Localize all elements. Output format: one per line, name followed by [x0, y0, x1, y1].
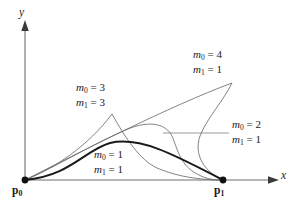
- annotation-m11-line2: m1 = 1: [94, 163, 123, 178]
- curve-m0-2-m1-1: [25, 124, 223, 180]
- annotation-m33-line1: m0 = 3: [76, 81, 105, 96]
- curve-m0-1-m1-1: [25, 142, 223, 180]
- curve-diagram: y x p0 p1 m0 = 4 m1 = 1 m0 = 3 m1 = 3 m0…: [0, 0, 301, 212]
- x-axis: [25, 176, 279, 183]
- annotation-m21-var0: m: [232, 118, 240, 130]
- point-label-p1-sub: 1: [220, 189, 224, 198]
- annotation-m41-eq1: = 1: [205, 63, 222, 75]
- annotation-m41-eq0: = 4: [205, 48, 222, 60]
- annotation-m41-var0: m: [193, 48, 201, 60]
- y-axis-arrowhead: [21, 20, 28, 31]
- annotation-m11-eq0: = 1: [106, 148, 123, 160]
- annotation-m33-var1: m: [76, 96, 84, 108]
- curve-m0-3-m1-3: [25, 114, 223, 180]
- point-label-p1: p1: [214, 184, 224, 198]
- annotation-m41-line2: m1 = 1: [193, 63, 222, 78]
- annotation-m21-eq0: = 2: [244, 118, 261, 130]
- annotation-m11-var1: m: [94, 163, 102, 175]
- annotation-m0-2-m1-1: m0 = 2 m1 = 1: [232, 118, 261, 148]
- endpoint-dot-p0: [22, 177, 29, 184]
- annotation-m41-var1: m: [193, 63, 201, 75]
- annotation-m11-var0: m: [94, 148, 102, 160]
- annotation-m33-eq1: = 3: [88, 96, 105, 108]
- x-axis-label: x: [281, 169, 286, 183]
- annotation-m0-1-m1-1: m0 = 1 m1 = 1: [94, 148, 123, 178]
- annotation-m21-eq1: = 1: [244, 133, 261, 145]
- annotation-m11-line1: m0 = 1: [94, 148, 123, 163]
- annotation-m0-3-m1-3: m0 = 3 m1 = 3: [76, 81, 105, 111]
- annotation-m11-eq1: = 1: [106, 163, 123, 175]
- annotation-m0-4-m1-1: m0 = 4 m1 = 1: [193, 48, 222, 78]
- diagram-canvas: [0, 0, 301, 212]
- endpoint-dot-p1: [220, 177, 227, 184]
- annotation-m33-line2: m1 = 3: [76, 96, 105, 111]
- y-axis: [21, 20, 28, 180]
- annotation-m21-line1: m0 = 2: [232, 118, 261, 133]
- y-axis-label: y: [19, 6, 24, 20]
- annotation-m21-line2: m1 = 1: [232, 133, 261, 148]
- annotation-m41-line1: m0 = 4: [193, 48, 222, 63]
- annotation-m33-var0: m: [76, 81, 84, 93]
- annotation-m33-eq0: = 3: [88, 81, 105, 93]
- point-label-p0-sub: 0: [18, 189, 22, 198]
- point-label-p0: p0: [12, 184, 22, 198]
- annotation-m21-var1: m: [232, 133, 240, 145]
- x-axis-arrowhead: [268, 176, 279, 183]
